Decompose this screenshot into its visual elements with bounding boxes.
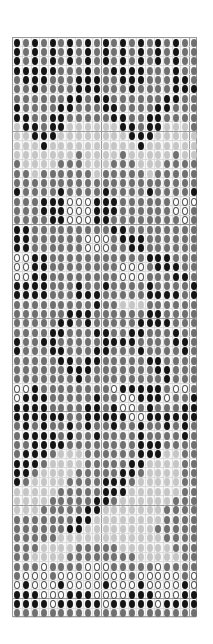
pattern-row (13, 300, 196, 309)
bead-cell (129, 450, 135, 458)
bead-cell (58, 525, 64, 533)
bead-cell (129, 132, 135, 140)
bead-cell (32, 319, 38, 327)
bead-cell (85, 563, 91, 571)
bead-cell (191, 375, 197, 383)
bead-cell (138, 142, 144, 150)
bead-cell (94, 404, 100, 412)
bead-cell (191, 301, 197, 309)
bead-cell (85, 432, 91, 440)
bead-cell (138, 198, 144, 206)
bead-cell (85, 460, 91, 468)
bead-cell (67, 488, 73, 496)
pattern-row (13, 197, 196, 206)
bead-cell (85, 450, 91, 458)
bead-cell (182, 216, 188, 224)
pattern-row (13, 422, 196, 431)
bead-cell (173, 57, 179, 65)
bead-cell (76, 553, 82, 561)
bead-cell (155, 506, 161, 514)
bead-cell (173, 478, 179, 486)
bead-cell (67, 422, 73, 430)
bead-cell (67, 460, 73, 468)
bead-cell (67, 170, 73, 178)
bead-cell (155, 123, 161, 131)
bead-cell (41, 123, 47, 131)
bead-cell (23, 450, 29, 458)
bead-cell (103, 338, 109, 346)
bead-cell (103, 525, 109, 533)
pattern-row (13, 132, 196, 141)
bead-cell (182, 609, 188, 617)
bead-cell (103, 422, 109, 430)
bead-cell (173, 95, 179, 103)
bead-cell (76, 310, 82, 318)
bead-cell (85, 544, 91, 552)
bead-cell (182, 563, 188, 571)
bead-cell (94, 422, 100, 430)
bead-cell (23, 460, 29, 468)
bead-cell (67, 85, 73, 93)
bead-cell (138, 413, 144, 421)
pattern-row (13, 543, 196, 552)
bead-cell (50, 600, 56, 608)
bead-cell (85, 591, 91, 599)
bead-cell (120, 207, 126, 215)
bead-cell (191, 310, 197, 318)
bead-cell (103, 385, 109, 393)
bead-cell (182, 432, 188, 440)
bead-cell (23, 441, 29, 449)
bead-cell (58, 591, 64, 599)
bead-cell (23, 516, 29, 524)
bead-cell (103, 441, 109, 449)
bead-cell (23, 104, 29, 112)
bead-cell (147, 450, 153, 458)
bead-cell (41, 244, 47, 252)
bead-cell (111, 226, 117, 234)
bead-cell (138, 132, 144, 140)
bead-cell (138, 179, 144, 187)
bead-cell (103, 357, 109, 365)
bead-cell (50, 478, 56, 486)
bead-cell (182, 357, 188, 365)
bead-cell (58, 198, 64, 206)
bead-cell (173, 357, 179, 365)
bead-cell (182, 48, 188, 56)
pattern-row (13, 553, 196, 562)
bead-cell (147, 516, 153, 524)
bead-cell (111, 497, 117, 505)
bead-cell (32, 534, 38, 542)
pattern-row (13, 468, 196, 477)
bead-cell (50, 39, 56, 47)
bead-cell (41, 506, 47, 514)
pattern-row (13, 478, 196, 487)
bead-cell (94, 534, 100, 542)
bead-cell (182, 188, 188, 196)
bead-cell (85, 553, 91, 561)
bead-cell (41, 600, 47, 608)
bead-cell (32, 151, 38, 159)
bead-cell (164, 95, 170, 103)
bead-cell (14, 544, 20, 552)
bead-cell (14, 338, 20, 346)
bead-cell (23, 525, 29, 533)
bead-cell (111, 114, 117, 122)
bead-cell (173, 226, 179, 234)
bead-cell (94, 544, 100, 552)
bead-cell (173, 170, 179, 178)
bead-cell (147, 216, 153, 224)
bead-cell (32, 160, 38, 168)
bead-cell (173, 67, 179, 75)
bead-cell (67, 273, 73, 281)
bead-cell (76, 198, 82, 206)
bead-cell (120, 534, 126, 542)
bead-cell (103, 450, 109, 458)
bead-cell (76, 385, 82, 393)
bead-cell (129, 282, 135, 290)
bead-cell (164, 432, 170, 440)
bead-cell (155, 67, 161, 75)
bead-cell (85, 160, 91, 168)
bead-cell (191, 254, 197, 262)
bead-cell (155, 432, 161, 440)
bead-cell (164, 347, 170, 355)
